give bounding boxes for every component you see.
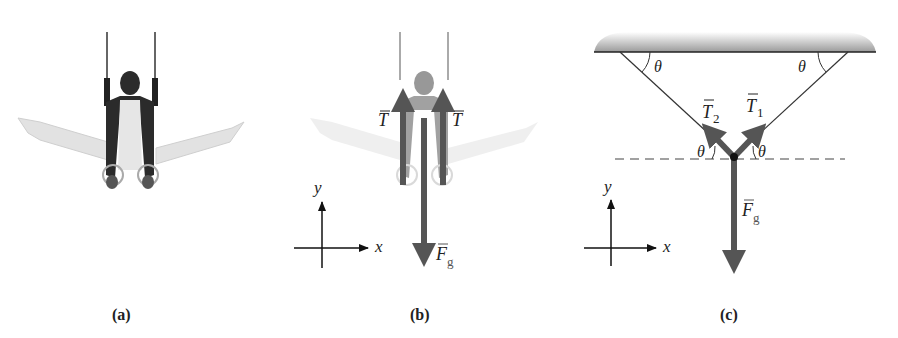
gymnast-illustration: [0, 0, 280, 338]
svg-text:1: 1: [757, 105, 764, 120]
panel-b: T T F g y x (b): [280, 0, 570, 338]
tension-left-label: T: [378, 110, 390, 130]
caption-c: (c): [720, 306, 738, 324]
y-axis-label-c: y: [602, 177, 612, 196]
point-mass: [730, 153, 738, 161]
tension-right-label: T: [452, 110, 464, 130]
ceiling: [594, 32, 876, 52]
axes-c: y x: [584, 177, 671, 266]
x-axis-label: x: [374, 237, 383, 256]
angle-theta-top-left: θ: [654, 58, 662, 75]
t2-arrow: [710, 132, 734, 157]
panel-c: θ θ θ θ T 2 T 1 F g y x (c): [570, 0, 898, 338]
y-axis-label: y: [312, 178, 322, 197]
angle-theta-bottom-left: θ: [697, 143, 705, 160]
t1-arrow: [734, 132, 758, 157]
x-axis-label-c: x: [662, 237, 671, 256]
svg-text:g: g: [753, 210, 760, 225]
angle-theta-bottom-right: θ: [758, 143, 766, 160]
svg-text:g: g: [447, 254, 454, 269]
panel-a: (a): [0, 0, 280, 338]
caption-b: (b): [410, 306, 430, 324]
free-body-diagram: θ θ θ θ T 2 T 1 F g y x: [570, 0, 898, 338]
force-diagram-b: T T F g y x: [280, 0, 570, 338]
angle-theta-top-right: θ: [798, 58, 806, 75]
axes-b: y x: [294, 178, 383, 268]
svg-text:2: 2: [713, 111, 720, 126]
caption-a: (a): [112, 306, 131, 324]
